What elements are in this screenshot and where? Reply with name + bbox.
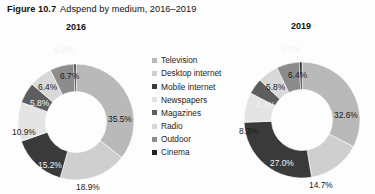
panel-year-2016: 2016: [46, 22, 106, 32]
pie-slice-mobile-internet[interactable]: [244, 121, 312, 178]
figure-container: Figure 10.7Adspend by medium, 2016–2019 …: [0, 0, 375, 194]
figure-number: Figure 10.7: [7, 4, 56, 14]
legend-item-mobile-internet[interactable]: Mobile internet: [152, 80, 226, 93]
legend-swatch-icon: [152, 110, 157, 115]
legend-item-label: Radio: [161, 122, 183, 130]
legend-item-outdoor[interactable]: Outdoor: [152, 133, 226, 146]
legend-swatch-icon: [152, 137, 157, 142]
legend-swatch-icon: [152, 97, 157, 102]
legend-item-label: Mobile internet: [161, 83, 215, 91]
legend-item-radio[interactable]: Radio: [152, 119, 226, 132]
pie-slice-television[interactable]: [302, 62, 360, 147]
legend-item-desktop-internet[interactable]: Desktop internet: [152, 67, 226, 80]
pie-slice-television[interactable]: [76, 64, 134, 158]
legend-item-label: Outdoor: [161, 135, 191, 143]
legend-swatch-icon: [152, 84, 157, 89]
legend-item-newspapers[interactable]: Newspapers: [152, 93, 226, 106]
legend-item-label: Desktop internet: [161, 69, 221, 77]
legend-swatch-icon: [152, 71, 157, 76]
donut-svg-2016: [8, 42, 144, 194]
legend-swatch-icon: [152, 150, 157, 155]
legend-swatch-icon: [152, 124, 157, 129]
legend-item-label: Cinema: [161, 148, 190, 156]
legend-item-magazines[interactable]: Magazines: [152, 106, 226, 119]
donut-svg-2019: [234, 40, 370, 194]
legend-item-label: Newspapers: [161, 96, 207, 104]
legend-item-label: Magazines: [161, 109, 201, 117]
legend: TelevisionDesktop internetMobile interne…: [152, 54, 226, 159]
donut-chart-2016: 35.5%18.9%15.2%10.9%5.8%6.4%6.7%0.6%: [8, 42, 144, 194]
legend-item-cinema[interactable]: Cinema: [152, 146, 226, 159]
legend-item-label: Television: [161, 56, 197, 64]
panel-year-2019: 2019: [271, 21, 331, 31]
legend-item-television[interactable]: Television: [152, 54, 226, 67]
figure-title: Figure 10.7Adspend by medium, 2016–2019: [7, 4, 196, 14]
legend-swatch-icon: [152, 58, 157, 63]
figure-caption: Adspend by medium, 2016–2019: [60, 4, 196, 14]
donut-chart-2019: 32.6%14.7%27.0%8.3%4.4%5.8%6.4%0.7%: [234, 40, 370, 194]
